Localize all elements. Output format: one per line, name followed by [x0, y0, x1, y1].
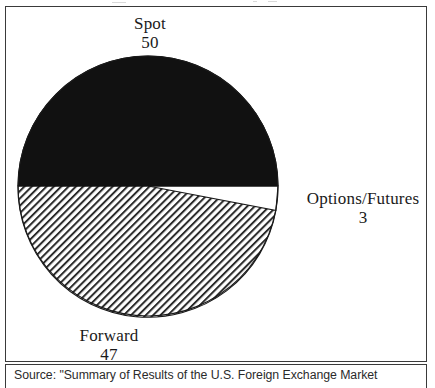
pie-slice-forward	[18, 186, 276, 317]
pie-chart: Spot 50 Forward 47 Options/Futures 3	[5, 6, 427, 362]
scan-artifact	[112, 2, 126, 3]
scan-artifact	[268, 1, 277, 2]
pie-label-forward: Forward 47	[19, 326, 199, 364]
source-frame: Source: "Summary of Results of the U.S. …	[5, 364, 427, 388]
pie-label-options-futures-name: Options/Futures	[289, 189, 435, 208]
pie-slice-spot	[18, 56, 278, 186]
pie-label-spot-value: 50	[5, 33, 295, 52]
source-note: Source: "Summary of Results of the U.S. …	[14, 368, 426, 383]
pie-label-spot-name: Spot	[5, 14, 295, 33]
pie-label-forward-name: Forward	[19, 326, 199, 345]
pie-label-options-futures-value: 3	[289, 208, 435, 227]
pie-label-spot: Spot 50	[5, 14, 295, 52]
pie-label-options-futures: Options/Futures 3	[289, 189, 435, 227]
pie-chart-svg	[5, 6, 427, 362]
pie-label-forward-value: 47	[19, 345, 199, 364]
scan-artifact	[253, 1, 257, 2]
